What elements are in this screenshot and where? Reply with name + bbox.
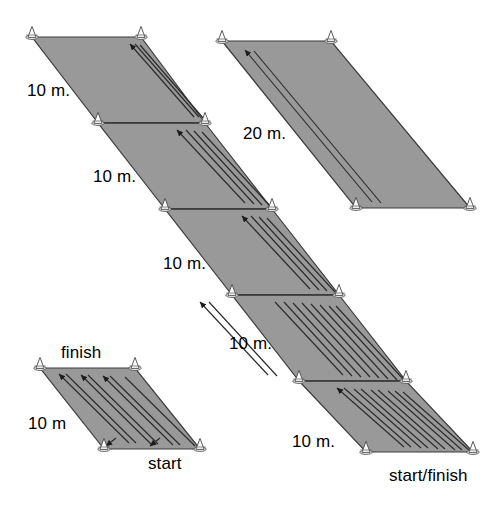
distance-label-segment-3: 10 m. xyxy=(163,255,206,272)
course-segment-1 xyxy=(32,37,205,123)
shuttle-box-field xyxy=(40,368,200,449)
distance-label-segment-2: 10 m. xyxy=(93,168,136,185)
finish-label: finish xyxy=(61,344,101,361)
shuttle-box-course xyxy=(34,357,206,451)
cone-marker xyxy=(325,30,337,43)
distance-label-top-left: 10 m. xyxy=(27,82,70,99)
course-segment-3 xyxy=(165,209,339,295)
cone-marker xyxy=(26,26,38,39)
cone-marker xyxy=(216,30,228,43)
distance-label-segment-5: 10 m. xyxy=(292,433,335,450)
start-label: start xyxy=(148,455,182,472)
course-layout-svg xyxy=(0,0,497,505)
cone-marker xyxy=(34,357,46,370)
distance-label-segment-4: 10 m. xyxy=(229,335,272,352)
segment-1-field xyxy=(32,37,205,123)
segment-3-field xyxy=(165,209,339,295)
start-finish-label: start/finish xyxy=(389,467,468,484)
diagram-canvas: 10 m. 10 m. 10 m. 10 m. 10 m. 20 m. 10 m… xyxy=(0,0,497,505)
distance-label-long-course: 20 m. xyxy=(243,125,286,142)
distance-label-shuttle-box: 10 m xyxy=(28,415,66,432)
cone-marker xyxy=(129,357,141,370)
long-course xyxy=(216,30,476,210)
cone-marker xyxy=(135,26,147,39)
